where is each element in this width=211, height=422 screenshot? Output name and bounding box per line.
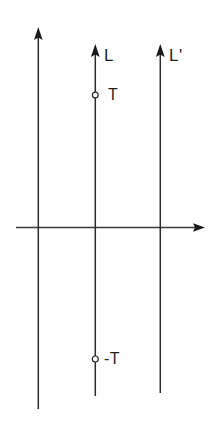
label-L: L [104, 46, 114, 65]
figure-canvas: L L' T -T [0, 0, 211, 422]
label-T: T [108, 86, 118, 103]
point-minus-T-marker [92, 356, 98, 362]
horizontal-axis-group [16, 223, 205, 231]
label-minus-T: -T [104, 350, 120, 367]
point-T-marker [92, 92, 98, 98]
line-L-prime-group [156, 44, 165, 393]
imaginary-axis-group [34, 27, 43, 409]
math-diagram: L L' T -T [0, 0, 211, 422]
label-L-prime: L' [169, 46, 183, 65]
